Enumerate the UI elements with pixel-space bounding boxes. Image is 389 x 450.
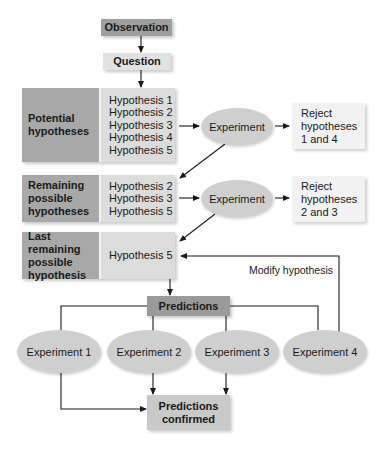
hypothesis-item: Hypothesis 5 (109, 144, 175, 157)
potential-hypotheses-label: Potential hypotheses (22, 88, 101, 162)
reject-line: Reject (301, 107, 365, 120)
reject-line: Reject (301, 180, 365, 193)
reject-line: hypotheses (301, 193, 365, 206)
hypothesis-item: Hypothesis 3 (109, 119, 175, 132)
experiment-4-ellipse: Experiment 4 (283, 330, 367, 373)
observation-label: Observation (104, 21, 168, 34)
experiment-2-ellipse: Experiment 2 (107, 330, 191, 373)
remaining-hypotheses-box: Remaining possible hypotheses Hypothesis… (22, 175, 175, 222)
reject-line: 1 and 4 (301, 133, 365, 146)
reject-line: hypotheses (301, 120, 365, 133)
question-label: Question (113, 55, 161, 68)
predictions-confirmed-box: Predictions confirmed (147, 395, 230, 430)
experiment-label: Experiment 4 (293, 346, 358, 358)
experiment-label: Experiment 3 (205, 346, 270, 358)
potential-hypotheses-box: Potential hypotheses Hypothesis 1 Hypoth… (22, 88, 175, 162)
predictions-box: Predictions (147, 296, 230, 316)
hypothesis-item: Hypothesis 5 (109, 249, 175, 262)
reject-box-1: Reject hypotheses 1 and 4 (292, 103, 365, 149)
remaining-hypotheses-list: Hypothesis 2 Hypothesis 3 Hypothesis 5 (101, 175, 175, 222)
potential-hypotheses-list: Hypothesis 1 Hypothesis 2 Hypothesis 3 H… (101, 88, 175, 162)
hypothesis-item: Hypothesis 1 (109, 94, 175, 107)
experiment-label: Experiment (209, 121, 265, 133)
observation-box: Observation (101, 19, 172, 36)
hypothesis-item: Hypothesis 2 (109, 106, 175, 119)
experiment-label: Experiment (209, 193, 265, 205)
hypothesis-item: Hypothesis 4 (109, 131, 175, 144)
last-hypothesis-box: Last remaining possible hypothesis Hypot… (22, 232, 175, 279)
question-box: Question (103, 53, 171, 70)
predictions-label: Predictions (159, 300, 219, 313)
remaining-hypotheses-label: Remaining possible hypotheses (22, 175, 101, 222)
last-hypothesis-label: Last remaining possible hypothesis (22, 232, 101, 279)
experiment-label: Experiment 1 (27, 346, 92, 358)
experiment-label: Experiment 2 (117, 346, 182, 358)
reject-line: 2 and 3 (301, 206, 365, 219)
experiment-ellipse-2: Experiment (201, 180, 273, 217)
experiment-1-ellipse: Experiment 1 (17, 330, 101, 373)
last-hypothesis-list: Hypothesis 5 (101, 232, 175, 279)
predictions-confirmed-label: Predictions confirmed (157, 400, 220, 426)
hypothesis-item: Hypothesis 3 (109, 192, 175, 205)
hypothesis-item: Hypothesis 5 (109, 205, 175, 218)
hypothesis-item: Hypothesis 2 (109, 180, 175, 193)
connector-lines (0, 0, 389, 450)
reject-box-2: Reject hypotheses 2 and 3 (292, 176, 365, 222)
modify-hypothesis-label: Modify hypothesis (249, 264, 333, 276)
experiment-3-ellipse: Experiment 3 (195, 330, 279, 373)
experiment-ellipse-1: Experiment (201, 108, 273, 145)
